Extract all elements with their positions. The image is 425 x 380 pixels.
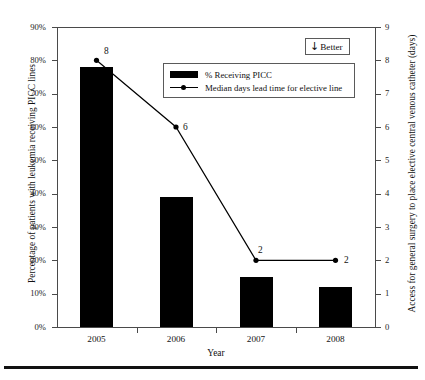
better-label: Better bbox=[320, 42, 342, 52]
x-axis-label: Year bbox=[57, 348, 375, 359]
better-annotation: ↓ Better bbox=[305, 38, 350, 55]
xtick-boundary-1 bbox=[137, 327, 138, 333]
legend-label-median-days: Median days lead time for elective line bbox=[205, 83, 342, 93]
bottom-divider bbox=[4, 366, 418, 369]
ytick-left-50 bbox=[52, 160, 58, 161]
ytick-right-2 bbox=[375, 260, 381, 261]
ytick-left-90 bbox=[52, 27, 58, 28]
ytick-right-5 bbox=[375, 160, 381, 161]
bar-2006 bbox=[160, 197, 193, 327]
ytick-left-10 bbox=[52, 294, 58, 295]
ytick-left-40 bbox=[52, 194, 58, 195]
ytick-left-label-0: 0% bbox=[35, 323, 46, 332]
ytick-left-60 bbox=[52, 127, 58, 128]
chart-legend: % Receiving PICC Median days lead time f… bbox=[163, 63, 355, 98]
axis-spine-left bbox=[57, 27, 58, 327]
ytick-right-label-3: 3 bbox=[385, 223, 389, 232]
xtick-label-2005: 2005 bbox=[77, 334, 117, 345]
point-label-2006: 6 bbox=[183, 122, 188, 132]
xtick-label-2008: 2008 bbox=[316, 334, 356, 345]
line-series-median-days bbox=[0, 0, 425, 380]
ytick-right-3 bbox=[375, 227, 381, 228]
legend-item-median-days: Median days lead time for elective line bbox=[170, 81, 348, 94]
legend-label-picc: % Receiving PICC bbox=[205, 70, 272, 80]
ytick-right-label-8: 8 bbox=[385, 56, 389, 65]
xtick-boundary-2 bbox=[216, 327, 217, 333]
ytick-right-label-9: 9 bbox=[385, 23, 389, 32]
ytick-right-8 bbox=[375, 60, 381, 61]
chart-figure: 0% 10% 20% 30% 40% 50% 60% 70% 80% 90% 0… bbox=[0, 0, 425, 380]
y-axis-label-left: Percentage of patients with leukemia rec… bbox=[27, 24, 38, 324]
ytick-right-label-6: 6 bbox=[385, 123, 389, 132]
ytick-left-80 bbox=[52, 60, 58, 61]
legend-bar-swatch-icon bbox=[170, 71, 198, 78]
ytick-right-label-2: 2 bbox=[385, 256, 389, 265]
ytick-right-label-0: 0 bbox=[385, 323, 389, 332]
bar-2007 bbox=[240, 277, 273, 327]
y-axis-label-right: Access for general surgery to place elec… bbox=[407, 16, 418, 332]
point-label-2008: 2 bbox=[344, 255, 349, 265]
ytick-right-0 bbox=[375, 327, 381, 328]
ytick-right-label-5: 5 bbox=[385, 156, 389, 165]
legend-line-swatch-icon bbox=[170, 84, 198, 91]
ytick-right-label-4: 4 bbox=[385, 189, 389, 198]
ytick-right-7 bbox=[375, 94, 381, 95]
bar-2005 bbox=[80, 67, 113, 327]
axis-spine-right bbox=[375, 27, 376, 327]
ytick-right-6 bbox=[375, 127, 381, 128]
point-label-2007: 2 bbox=[258, 245, 263, 255]
ytick-right-4 bbox=[375, 194, 381, 195]
ytick-left-30 bbox=[52, 227, 58, 228]
ytick-right-label-1: 1 bbox=[385, 289, 389, 298]
axis-spine-top bbox=[57, 27, 375, 28]
xtick-boundary-3 bbox=[296, 327, 297, 333]
ytick-right-label-7: 7 bbox=[385, 89, 389, 98]
ytick-left-0 bbox=[52, 327, 58, 328]
arrow-down-icon: ↓ bbox=[310, 41, 319, 52]
ytick-right-9 bbox=[375, 27, 381, 28]
point-label-2005: 8 bbox=[104, 46, 109, 56]
xtick-label-2007: 2007 bbox=[236, 334, 276, 345]
xtick-label-2006: 2006 bbox=[156, 334, 196, 345]
bar-2008 bbox=[319, 287, 352, 327]
ytick-left-70 bbox=[52, 94, 58, 95]
ytick-left-20 bbox=[52, 260, 58, 261]
legend-item-picc: % Receiving PICC bbox=[170, 68, 348, 81]
ytick-right-1 bbox=[375, 294, 381, 295]
